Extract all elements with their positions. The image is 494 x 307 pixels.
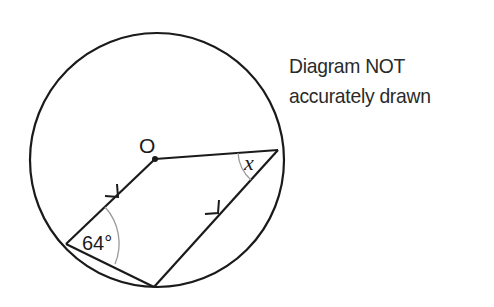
- segment-BC: [154, 150, 278, 287]
- note-line-1: Diagram NOT: [289, 54, 405, 78]
- parallel-arrow-icon: [205, 200, 219, 214]
- angle-label-x: x: [243, 150, 254, 175]
- center-label: O: [139, 134, 155, 157]
- angle-label-64: 64°: [82, 232, 112, 254]
- circle-geometry-diagram: O 64° x: [0, 0, 494, 307]
- note-line-2: accurately drawn: [289, 84, 431, 108]
- segment-CO: [155, 150, 278, 159]
